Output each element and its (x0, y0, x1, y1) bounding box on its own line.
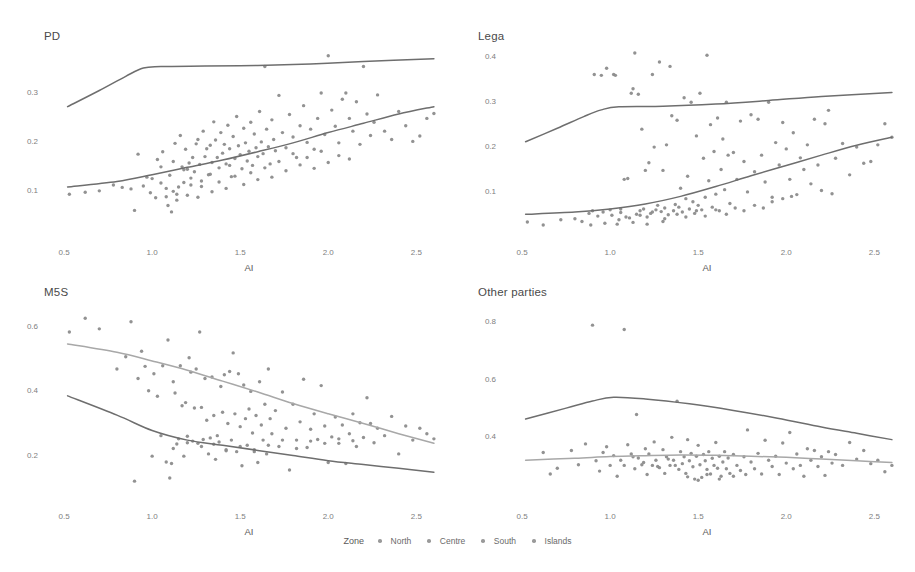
fit-line-lower-fit (526, 455, 892, 462)
legend-marker-icon (532, 539, 536, 543)
x-tick-label: 2.5 (404, 248, 428, 257)
plot-area-m5s (0, 272, 457, 534)
y-tick-label: 0.3 (4, 88, 38, 97)
y-tick-label: 0.1 (462, 187, 496, 196)
x-tick-label: 0.5 (52, 248, 76, 257)
x-tick-label: 2.0 (774, 512, 798, 521)
multi-panel-scatter-figure: PD 0.10.20.30.51.01.52.02.5AI Lega 0.10.… (0, 0, 915, 572)
x-tick-label: 1.0 (598, 512, 622, 521)
fit-line-lower-fit (526, 137, 892, 214)
legend-label: South (494, 536, 516, 546)
x-tick-label: 0.5 (510, 248, 534, 257)
legend-item-north[interactable]: North (378, 536, 411, 546)
y-tick-label: 0.6 (4, 322, 38, 331)
scatter-points (542, 323, 894, 481)
legend-label: Islands (545, 536, 572, 546)
x-tick-label: 2.5 (862, 512, 886, 521)
x-tick-label: 1.5 (228, 512, 252, 521)
fit-line-upper-fit (68, 59, 434, 107)
fit-line-upper-fit (526, 92, 892, 141)
x-tick-label: 2.5 (404, 512, 428, 521)
x-tick-label: 1.5 (228, 248, 252, 257)
fit-line-upper-fit (526, 397, 892, 439)
x-tick-label: 0.5 (510, 512, 534, 521)
y-tick-label: 0.2 (462, 142, 496, 151)
legend-item-centre[interactable]: Centre (427, 536, 465, 546)
y-tick-label: 0.6 (462, 375, 496, 384)
x-tick-label: 1.0 (598, 248, 622, 257)
scatter-points (68, 317, 436, 483)
x-tick-label: 1.5 (686, 512, 710, 521)
x-tick-label: 1.0 (140, 248, 164, 257)
fit-line-lower-fit (68, 107, 434, 187)
legend: Zone North Centre South Islands (0, 531, 915, 551)
panel-m5s: M5S 0.20.40.60.51.01.52.02.5AI (0, 272, 457, 534)
y-tick-label: 0.1 (4, 186, 38, 195)
x-tick-label: 2.0 (316, 512, 340, 521)
x-tick-label: 2.0 (316, 248, 340, 257)
fit-line-lower-fit (68, 396, 434, 472)
fit-line-upper-fit (68, 344, 434, 443)
y-tick-label: 0.4 (462, 52, 496, 61)
panel-lega: Lega 0.10.20.30.40.51.01.52.02.5AI (458, 8, 915, 270)
legend-marker-icon (427, 539, 431, 543)
legend-label: Centre (440, 536, 466, 546)
scatter-points (526, 51, 894, 227)
plot-area-pd (0, 8, 457, 270)
x-tick-label: 0.5 (52, 512, 76, 521)
x-tick-label: 2.0 (774, 248, 798, 257)
legend-title: Zone (344, 536, 365, 546)
x-tick-label: 1.5 (686, 248, 710, 257)
panel-pd: PD 0.10.20.30.51.01.52.02.5AI (0, 8, 457, 270)
legend-marker-icon (378, 539, 382, 543)
y-tick-label: 0.8 (462, 317, 496, 326)
legend-marker-icon (481, 539, 485, 543)
legend-item-islands[interactable]: Islands (532, 536, 571, 546)
x-tick-label: 2.5 (862, 248, 886, 257)
panel-other-parties: Other parties 0.40.60.80.51.01.52.02.5AI (458, 272, 915, 534)
y-tick-label: 0.4 (462, 432, 496, 441)
plot-area-other-parties (458, 272, 915, 534)
y-tick-label: 0.4 (4, 386, 38, 395)
x-tick-label: 1.0 (140, 512, 164, 521)
plot-area-lega (458, 8, 915, 270)
y-tick-label: 0.2 (4, 137, 38, 146)
y-tick-label: 0.3 (462, 97, 496, 106)
y-tick-label: 0.2 (4, 451, 38, 460)
legend-label: North (391, 536, 412, 546)
legend-item-south[interactable]: South (481, 536, 516, 546)
